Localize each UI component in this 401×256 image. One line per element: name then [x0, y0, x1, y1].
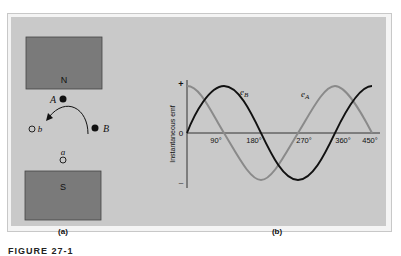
south-pole: [25, 171, 101, 220]
panel-b: + 0 – Instantaneous emf 90° 180° 270° 36…: [169, 79, 380, 236]
conductor-b: [29, 126, 35, 132]
curve-eA-label: eA: [301, 89, 310, 101]
y-tick-zero: 0: [179, 129, 184, 138]
conductor-B-label: B: [103, 123, 109, 134]
x-tick-180: 180°: [246, 136, 262, 145]
south-pole-label: S: [60, 182, 66, 192]
y-tick-minus: –: [179, 178, 184, 187]
x-tick-90: 90°: [210, 136, 221, 145]
conductor-b-label: b: [38, 124, 43, 134]
panel-a-label: (a): [58, 227, 68, 236]
y-tick-plus: +: [178, 79, 183, 89]
panel-b-label: (b): [272, 227, 283, 236]
x-tick-450: 450°: [362, 136, 378, 145]
y-axis-label: Instantaneous emf: [169, 105, 176, 163]
rotation-arrow: [49, 106, 88, 134]
conductor-A: [60, 96, 67, 103]
x-tick-270: 270°: [296, 136, 312, 145]
conductor-A-label: A: [49, 94, 57, 105]
figure-caption: FIGURE 27-1: [8, 246, 74, 256]
conductor-a-label: a: [61, 147, 66, 157]
figure-svg: N S A B a b (a) + 0 – Instantaneous emf …: [0, 0, 401, 256]
panel-a: N S A B a b (a): [25, 37, 109, 236]
x-tick-360: 360°: [335, 136, 351, 145]
north-pole-label: N: [61, 75, 68, 85]
conductor-B: [92, 125, 99, 132]
conductor-a: [60, 157, 66, 163]
